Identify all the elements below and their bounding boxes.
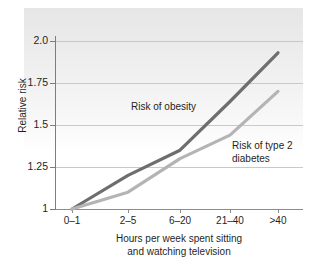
x-axis-title-line-2: and watching television: [55, 246, 303, 259]
x-tick-0-1: [72, 209, 73, 213]
x-tick-21-40: [230, 209, 231, 213]
y-tick-2-0: [50, 41, 56, 42]
gridline-1-75: [56, 83, 303, 84]
y-axis-line: [55, 36, 56, 210]
y-tick-label-1-75: 1.75: [28, 77, 48, 88]
x-axis-title-line-1: Hours per week spent sitting: [55, 233, 303, 246]
y-tick-1-75: [50, 83, 56, 84]
y-tick-1-25: [50, 167, 56, 168]
series-line-obesity: [72, 53, 278, 209]
y-axis-title: Relative risk: [17, 46, 28, 166]
series-annotation-obesity: Risk of obesity: [131, 101, 196, 114]
gridline-2-0: [56, 41, 303, 42]
y-tick-label-1: 1: [42, 203, 48, 214]
x-tick-40-plus: [278, 209, 279, 213]
y-tick-label-1-5: 1.5: [33, 119, 48, 130]
y-tick-1: [50, 209, 56, 210]
gridline-1-25: [56, 167, 303, 168]
series-annotation-diabetes: Risk of type 2 diabetes: [232, 140, 293, 165]
series-annotation-obesity-line-1: Risk of obesity: [131, 101, 196, 114]
x-axis-title: Hours per week spent sitting and watchin…: [55, 233, 303, 258]
series-annotation-diabetes-line-2: diabetes: [232, 153, 293, 166]
chart-figure: 2.0 1.75 1.5 1.25 1 Relative risk 0–1 2–…: [0, 0, 321, 272]
y-tick-1-5: [50, 125, 56, 126]
y-tick-label-1-25: 1.25: [28, 161, 48, 172]
y-tick-label-2-0: 2.0: [33, 35, 48, 46]
x-tick-label-21-40: 21–40: [216, 215, 244, 227]
x-tick-label-2-5: 2–5: [120, 215, 137, 227]
x-axis-line: [55, 209, 303, 210]
gridline-1-5: [56, 125, 303, 126]
x-tick-label-6-20: 6–20: [169, 215, 191, 227]
x-tick-6-20: [180, 209, 181, 213]
x-tick-label-40-plus: >40: [270, 215, 287, 227]
series-annotation-diabetes-line-1: Risk of type 2: [232, 140, 293, 153]
plot-background-wash: [24, 8, 303, 153]
x-tick-2-5: [128, 209, 129, 213]
x-tick-label-0-1: 0–1: [64, 215, 81, 227]
